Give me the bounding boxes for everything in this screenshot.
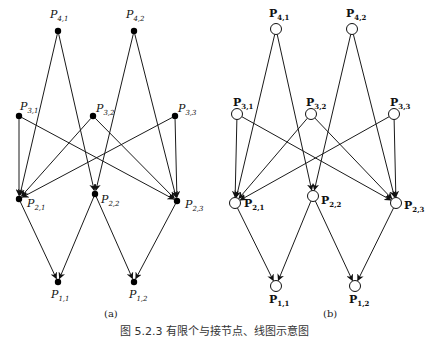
node-p41 [271,24,282,35]
edge-P22-P11 [278,201,311,280]
node-p12 [350,281,361,292]
edge-P22-P12 [96,197,132,279]
edge-P33-P23 [394,119,396,197]
node-label-p32: P3,2 [95,102,115,117]
edge-P31-P23 [22,118,174,200]
edge-P41-P21 [20,34,57,195]
edge-P33-P23 [175,119,177,197]
edge-P23-P12 [358,208,394,281]
node-label-p12: P1,2 [349,293,370,308]
edge-P23-P12 [136,204,176,279]
node-label-p31: P3,1 [19,100,39,115]
node-label-p22: P2,2 [100,193,120,208]
panel-a: P4,1P4,2P3,1P3,2P3,3P2,1P2,2P2,3P1,1P1,2… [16,8,204,319]
node-label-p23: P2,3 [184,198,204,213]
edge-P21-P11 [237,208,273,281]
edge-P32-P23 [95,118,174,198]
edge-P22-P11 [59,197,93,279]
edge-P32-P23 [315,118,392,199]
node-p23 [391,198,402,209]
node-p11 [271,281,282,292]
node-p21 [16,196,22,202]
edge-P21-P11 [20,202,56,279]
node-label-p23: P2,3 [404,199,425,214]
node-p42 [131,28,137,34]
node-p21 [230,198,241,209]
node-label-p12: P1,2 [128,288,148,303]
node-label-p21: P2,1 [26,197,46,212]
edge-P31-P23 [242,117,391,200]
edge-P41-P22 [59,34,94,190]
node-p31 [16,113,22,119]
node-label-p41: P4,1 [49,8,69,23]
node-label-p33: P3,3 [177,102,197,117]
node-p12 [131,279,137,285]
node-p11 [55,279,61,285]
node-label-p41: P4,1 [269,7,290,22]
node-p23 [174,198,180,204]
node-label-p32: P3,2 [306,96,327,111]
panel-caption-b: (b) [323,308,337,319]
node-p22 [92,191,98,197]
edge-P32-P21 [239,118,308,198]
edge-P42-P23 [135,34,176,197]
node-p41 [55,28,61,34]
edge-P42-P22 [314,34,350,190]
panel-caption-a: (a) [104,308,118,319]
figure-caption: 图 5.2.3 有限个与接节点、线图示意图 [120,322,340,338]
node-label-p22: P2,2 [321,194,342,209]
edge-P22-P12 [315,201,352,281]
panel-b: P4,1P4,2P3,1P3,2P3,3P2,1P2,2P2,3P1,1P1,2… [230,7,425,319]
edge-P32-P21 [21,118,90,196]
node-label-p21: P2,1 [244,197,265,212]
node-label-p11: P1,1 [269,293,290,308]
node-label-p31: P3,1 [233,96,254,111]
edge-P31-P21 [235,119,237,197]
node-label-p42: P4,2 [125,8,145,23]
node-label-p33: P3,3 [390,96,411,111]
node-label-p11: P1,1 [50,288,70,303]
node-p22 [308,191,319,202]
node-label-p42: P4,2 [346,7,367,22]
node-p42 [347,24,358,35]
